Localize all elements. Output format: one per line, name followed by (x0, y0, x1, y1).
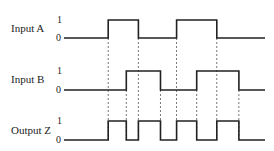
waveform-input-b (64, 71, 265, 90)
guide-lines (108, 38, 239, 140)
timing-diagram: Input A 1 0 Input B 1 0 Output Z 1 0 (0, 0, 274, 151)
level-low-label: 0 (56, 84, 61, 95)
signal-label-input-a: Input A (11, 22, 44, 34)
level-high-label: 1 (57, 14, 62, 25)
level-low-label: 0 (56, 32, 61, 43)
signal-row-input-a: Input A 1 0 (11, 14, 265, 43)
signal-label-input-b: Input B (11, 73, 44, 85)
waveform-output-z (64, 121, 265, 140)
level-low-label: 0 (56, 134, 61, 145)
waveform-input-a (64, 20, 265, 38)
level-high-label: 1 (57, 65, 62, 76)
signal-label-output-z: Output Z (11, 124, 51, 136)
level-high-label: 1 (57, 115, 62, 126)
